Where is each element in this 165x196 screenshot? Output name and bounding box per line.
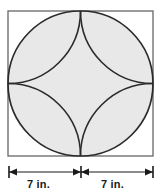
dimension-label-right: 7 in. (101, 179, 124, 190)
dimension-line-group (9, 166, 153, 178)
arrowhead-right-inner (81, 169, 89, 176)
dimension-label-left: 7 in. (27, 179, 50, 190)
arrowhead-left-inner (73, 169, 81, 176)
figure-canvas (0, 0, 165, 196)
arrowhead-right-outer (145, 169, 153, 176)
geometry-figure: 7 in. 7 in. (0, 0, 165, 196)
arrowhead-left-outer (9, 169, 17, 176)
